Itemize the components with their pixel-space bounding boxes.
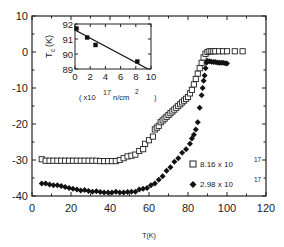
inset-y-tick-label: 92 (62, 19, 73, 30)
data-point (224, 49, 229, 54)
data-point (200, 85, 206, 91)
chart-canvas: 100-10-20-30-40 020406080100120 T(K) 8.1… (0, 0, 284, 247)
data-point (187, 141, 193, 147)
legend: 8.16 x 10 17 2.98 x 10 17 (190, 156, 262, 189)
x-tick-label: 20 (65, 202, 77, 214)
data-point (197, 66, 202, 71)
y-tick-label: -40 (12, 190, 28, 202)
inset-y-tick-label: 90 (62, 49, 73, 60)
data-point (193, 126, 199, 132)
y-tick-label: 0 (22, 46, 28, 58)
data-point (164, 168, 170, 174)
legend-exponent-2: 17 (254, 176, 262, 183)
data-point (203, 65, 209, 71)
x-axis-label: T(K) (142, 232, 156, 240)
data-point (195, 71, 200, 76)
x-tick-label: 40 (104, 202, 116, 214)
y-tick-label: -30 (12, 154, 28, 166)
legend-label-1: 8.16 x 10 (200, 160, 233, 169)
data-point (171, 159, 177, 165)
legend-exponent-1: 17 (254, 156, 262, 163)
inset-x-tick-label: 0 (72, 71, 77, 82)
y-tick-label: 10 (16, 10, 28, 22)
legend-filled-diamond-icon (190, 181, 197, 188)
svg-text:17: 17 (103, 89, 111, 96)
svg-text:): ) (154, 93, 157, 102)
inset-x-label: ( x10 17 n/cm 2 ) (79, 88, 157, 102)
x-tick-label: 80 (182, 202, 194, 214)
inset-x-tick-label: 8 (133, 71, 138, 82)
svg-text:n/cm: n/cm (113, 93, 129, 102)
data-point (189, 87, 194, 92)
data-point (240, 49, 245, 54)
svg-text:( x10: ( x10 (79, 93, 96, 102)
data-point (167, 164, 173, 170)
data-point (175, 155, 181, 161)
data-point (160, 173, 166, 179)
inset-y-tick-label: 91 (62, 34, 73, 45)
data-point (201, 78, 207, 84)
x-tick-label: 0 (29, 202, 35, 214)
inset-x-tick-label: 4 (103, 71, 108, 82)
inset-frame (75, 24, 151, 69)
data-point (141, 147, 146, 152)
legend-open-square-icon (190, 161, 196, 167)
svg-text:(K): (K) (44, 35, 54, 47)
inset-x-tick-label: 2 (88, 71, 93, 82)
inset-x-tick-label: 6 (118, 71, 123, 82)
x-tick-label: 120 (257, 202, 275, 214)
data-point (191, 82, 196, 87)
data-point (232, 49, 237, 54)
inset-x-tick-label: 10 (146, 71, 157, 82)
inset-y-label: T c (K) (44, 35, 56, 58)
inset-chart: 92919089 0246810 T c (K) ( x10 17 n/cm 2… (44, 19, 157, 103)
legend-label-2: 2.98 x 10 (200, 180, 233, 189)
y-tick-label: -10 (12, 82, 28, 94)
data-point (183, 146, 189, 152)
data-point (179, 150, 185, 156)
data-point (202, 72, 208, 78)
svg-text:2: 2 (135, 88, 139, 95)
data-point (195, 119, 201, 125)
svg-text:c: c (49, 48, 56, 52)
data-point (193, 76, 198, 81)
inset-data-point (93, 43, 97, 47)
data-point (197, 105, 203, 111)
x-tick-label: 60 (143, 202, 155, 214)
data-point (199, 92, 205, 98)
y-tick-label: -20 (12, 118, 28, 130)
data-point (156, 177, 162, 183)
data-point (150, 134, 155, 139)
x-tick-label: 100 (218, 202, 236, 214)
data-point (199, 60, 204, 65)
